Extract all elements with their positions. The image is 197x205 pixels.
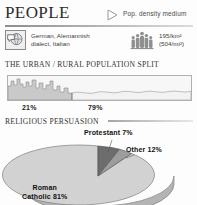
religion-heading: RELIGIOUS PERSUASION bbox=[5, 117, 99, 126]
pie-label-catholic-line-1: Roman bbox=[22, 183, 67, 192]
urban-rural-chart bbox=[7, 75, 192, 101]
density-text: 195/km² (504/mi²) bbox=[159, 30, 184, 48]
religion-heading-rule bbox=[108, 120, 193, 122]
density-fact: 195/km² (504/mi²) bbox=[130, 30, 184, 50]
pie-label-catholic: Roman Catholic 81% bbox=[22, 183, 67, 201]
crowd-people-icon bbox=[130, 30, 154, 50]
urban-rural-heading: THE URBAN / RURAL POPULATION SPLIT bbox=[5, 60, 159, 69]
people-infographic-panel: PEOPLE Pop. density medium bbox=[0, 0, 197, 205]
triangle-right-icon bbox=[107, 7, 118, 19]
panel-header: PEOPLE Pop. density medium bbox=[5, 4, 193, 26]
pie-label-catholic-line-2: Catholic 81% bbox=[22, 192, 67, 201]
density-line-1: 195/km² bbox=[159, 32, 184, 40]
religion-pie-chart: Protestant 7% Other 12% Roman Catholic 8… bbox=[0, 128, 197, 205]
pie-label-other: Other 12% bbox=[126, 146, 162, 153]
language-fact: German, Alemannish dialect, Italian bbox=[5, 30, 90, 50]
header-rule bbox=[5, 25, 193, 27]
speech-globe-icon bbox=[5, 30, 26, 50]
urban-percent-label: 21% bbox=[22, 104, 37, 111]
density-line-2: (504/mi²) bbox=[159, 40, 184, 48]
language-line-1: German, Alemannish bbox=[31, 32, 90, 40]
urban-rural-graphic bbox=[8, 76, 191, 100]
fact-row: German, Alemannish dialect, Italian bbox=[5, 30, 193, 56]
pie-label-protestant: Protestant 7% bbox=[84, 129, 133, 136]
language-text: German, Alemannish dialect, Italian bbox=[31, 30, 90, 48]
pop-density-flag: Pop. density medium bbox=[107, 7, 187, 19]
pop-density-label: Pop. density medium bbox=[123, 10, 187, 17]
language-line-2: dialect, Italian bbox=[31, 40, 90, 48]
page-title: PEOPLE bbox=[5, 3, 70, 22]
rural-percent-label: 79% bbox=[88, 104, 103, 111]
